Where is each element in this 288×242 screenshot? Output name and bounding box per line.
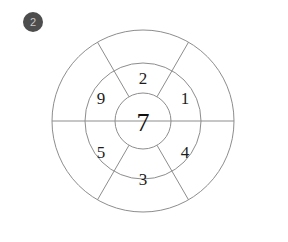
diagram-canvas: 2 2 1 4 3 5 9 7: [0, 0, 288, 242]
segment-label-top: 2: [139, 69, 148, 88]
segment-label-upper-left: 9: [97, 89, 106, 108]
segment-label-lower-left: 5: [97, 143, 106, 162]
center-label: 7: [137, 108, 150, 137]
segment-label-upper-right: 1: [181, 89, 190, 108]
concentric-wheel-diagram: 2 1 4 3 5 9 7: [0, 0, 288, 242]
segment-label-lower-right: 4: [181, 143, 190, 162]
segment-label-bottom: 3: [139, 170, 148, 189]
